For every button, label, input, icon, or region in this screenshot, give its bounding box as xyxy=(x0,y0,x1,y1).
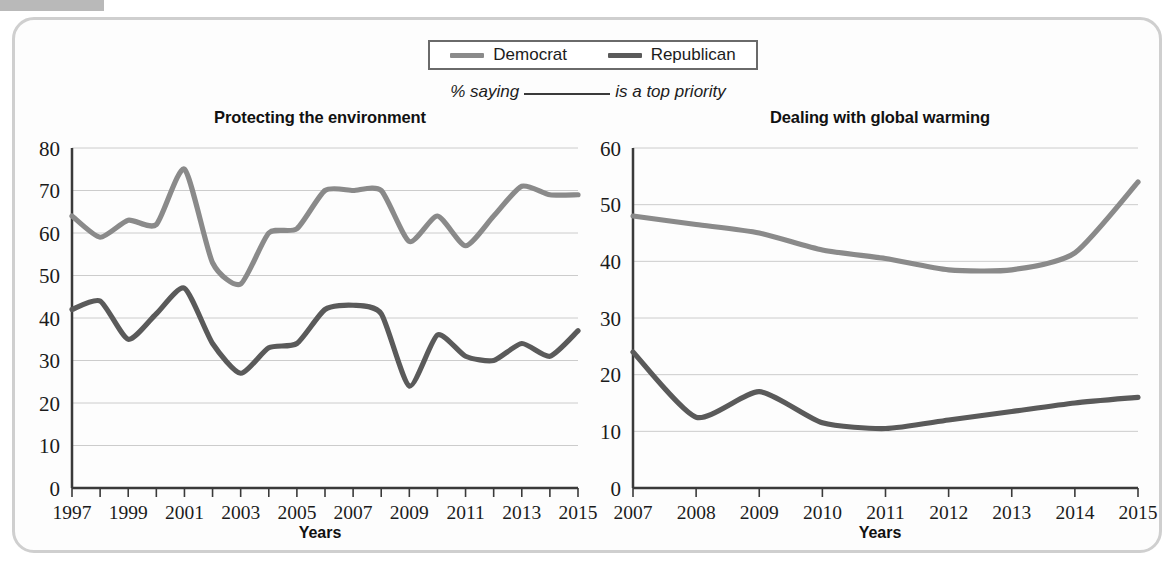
x-axis-title-left: Years xyxy=(60,524,580,542)
x-axis-tick-label: 2015 xyxy=(1119,502,1158,523)
y-axis-tick-label: 10 xyxy=(600,420,621,444)
x-axis-tick-label: 2009 xyxy=(740,502,779,523)
line-chart-global-warming: 0102030405060200720082009201020112012201… xyxy=(0,0,1176,570)
x-axis-title-right: Years xyxy=(620,524,1140,542)
y-axis-tick-label: 20 xyxy=(600,363,621,387)
data-line-democrat xyxy=(633,182,1138,271)
x-axis-tick-label: 2010 xyxy=(803,502,842,523)
x-axis-tick-label: 2011 xyxy=(866,502,904,523)
x-axis-tick-label: 2013 xyxy=(992,502,1031,523)
x-axis-tick-label: 2007 xyxy=(614,502,653,523)
y-axis-tick-label: 60 xyxy=(600,137,621,161)
y-axis-tick-label: 40 xyxy=(600,250,621,274)
x-axis-tick-label: 2012 xyxy=(929,502,968,523)
data-line-republican xyxy=(633,352,1138,429)
y-axis-tick-label: 30 xyxy=(600,307,621,331)
y-axis-tick-label: 50 xyxy=(600,193,621,217)
x-axis-tick-label: 2014 xyxy=(1055,502,1094,523)
x-axis-tick-label: 2008 xyxy=(677,502,716,523)
y-axis-tick-label: 0 xyxy=(611,477,622,501)
